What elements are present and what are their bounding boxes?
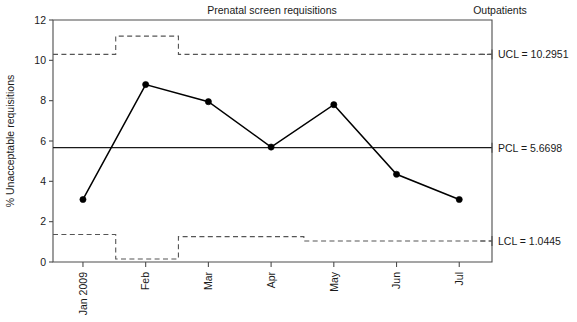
- plot-frame: [53, 20, 492, 262]
- x-tick-label-1: Feb: [139, 272, 151, 290]
- lcl-line: [53, 235, 492, 259]
- data-point-1[interactable]: [143, 81, 149, 87]
- data-point-2[interactable]: [205, 99, 211, 105]
- x-tick-label-5: Jun: [390, 272, 402, 289]
- panel-label-outpatients: Outpatients: [473, 4, 527, 16]
- x-tick-label-2: Mar: [202, 272, 214, 291]
- y-tick-label-12: 12: [34, 14, 46, 26]
- data-point-6[interactable]: [456, 196, 462, 202]
- lcl-label: LCL = 1.0445: [498, 235, 561, 247]
- x-tick-label-0: Jan 2009: [77, 272, 89, 315]
- y-tick-label-4: 4: [40, 175, 46, 187]
- y-tick-label-2: 2: [40, 215, 46, 227]
- chart-canvas: Prenatal screen requisitions Outpatients…: [0, 0, 577, 322]
- ucl-label: UCL = 10.2951: [498, 48, 569, 60]
- y-axis-title: % Unacceptable requisitions: [4, 75, 16, 208]
- x-tick-label-4: May: [328, 271, 340, 292]
- y-tick-label-0: 0: [40, 256, 46, 268]
- control-chart: Prenatal screen requisitions Outpatients…: [0, 0, 577, 322]
- limit-labels: UCL = 10.2951PCL = 5.6698LCL = 1.0445: [480, 48, 569, 247]
- x-tick-label-3: Apr: [265, 272, 277, 289]
- series-line: [83, 85, 459, 200]
- y-tick-label-8: 8: [40, 94, 46, 106]
- pcl-label: PCL = 5.6698: [498, 142, 562, 154]
- y-tick-label-6: 6: [40, 135, 46, 147]
- data-series: [80, 81, 462, 202]
- y-tick-label-10: 10: [34, 54, 46, 66]
- data-point-0[interactable]: [80, 196, 86, 202]
- x-axis: Jan 2009FebMarAprMayJunJul: [77, 262, 465, 315]
- data-point-3[interactable]: [268, 144, 274, 150]
- x-tick-label-6: Jul: [453, 272, 465, 285]
- data-point-4[interactable]: [331, 102, 337, 108]
- data-point-5[interactable]: [393, 171, 399, 177]
- chart-title: Prenatal screen requisitions: [207, 4, 337, 16]
- y-axis: 024681012: [34, 14, 53, 268]
- ucl-line: [53, 36, 492, 54]
